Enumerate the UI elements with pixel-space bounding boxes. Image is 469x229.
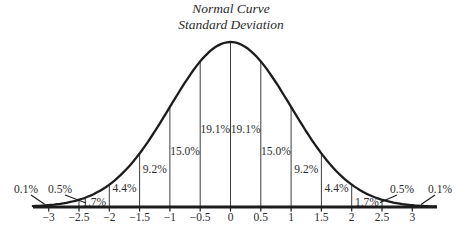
axis-tick-label: 0.5	[254, 211, 269, 223]
axis-tick-label: 2	[349, 211, 355, 223]
tail-percent-label: 0.5%	[390, 183, 414, 195]
tail-percent-label: 0.5%	[48, 183, 72, 195]
segment-percent-label: 19.1%	[200, 123, 230, 135]
axis-tick-label: 3	[409, 211, 415, 223]
segment-percent-label: 4.4%	[113, 182, 137, 194]
tail-percent-label: 0.1%	[14, 183, 38, 195]
axis-tick-label: 1	[288, 211, 294, 223]
callout-leader-line	[421, 195, 435, 205]
axis-tick-label: −0.5	[190, 211, 211, 223]
segment-percent-label: 4.4%	[325, 182, 349, 194]
axis-tick-label: −1	[164, 211, 176, 223]
segment-percent-label: 9.2%	[143, 163, 167, 175]
segment-percent-label: 15.0%	[261, 145, 291, 157]
tail-percent-label: 0.1%	[428, 183, 452, 195]
segment-percent-label: 9.2%	[294, 163, 318, 175]
segment-percent-label: 15.0%	[170, 145, 200, 157]
axis-tick-label: −3	[43, 211, 55, 223]
axis-tick-label: −2.5	[69, 211, 90, 223]
axis-tick-label: −2	[103, 211, 115, 223]
segment-percent-label: 19.1%	[231, 123, 261, 135]
axis-tick-label: 1.5	[314, 211, 329, 223]
axis-tick-label: 0	[228, 211, 234, 223]
segment-percent-label: 1.7%	[82, 196, 106, 208]
segment-percent-label: 1.7%	[355, 196, 379, 208]
normal-curve-chart: Normal Curve Standard Deviation −3−2.5−2…	[0, 0, 469, 229]
axis-tick-label: −1.5	[129, 211, 150, 223]
callout-leader-line	[31, 195, 45, 205]
bell-curve-plot: −3−2.5−2−1.5−1−0.500.511.522.531.7%4.4%9…	[0, 0, 469, 229]
axis-tick-label: 2.5	[375, 211, 390, 223]
